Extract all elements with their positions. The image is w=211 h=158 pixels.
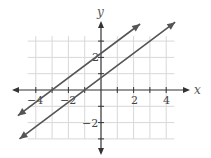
- y-axis-arrow-up-icon: [98, 21, 104, 28]
- y-axis-label: y: [96, 5, 104, 19]
- y-tick-label: −2: [82, 117, 98, 130]
- arrowhead-icon: [18, 108, 27, 116]
- arrowhead-icon: [20, 131, 29, 139]
- x-axis-arrow-right-icon: [183, 87, 190, 93]
- y-axis-arrow-down-icon: [98, 148, 104, 155]
- arrowhead-icon: [167, 22, 176, 30]
- axes: x y: [12, 5, 201, 155]
- arrowhead-icon: [132, 24, 141, 32]
- coordinate-plane: x y −4 −2 2 4 −2 2: [0, 0, 211, 158]
- x-tick-label: 2: [131, 94, 138, 107]
- x-tick-label: 4: [163, 94, 170, 107]
- x-axis-label: x: [194, 83, 201, 97]
- x-tick-label: −4: [27, 94, 43, 107]
- x-axis-arrow-left-icon: [12, 87, 19, 93]
- x-tick-label: −2: [60, 94, 76, 107]
